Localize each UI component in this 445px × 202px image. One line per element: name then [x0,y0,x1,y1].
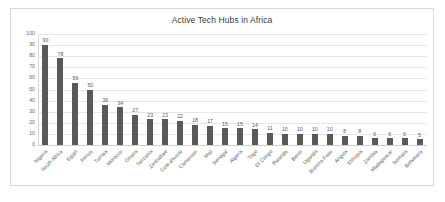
bar-item[interactable]: 5 [412,34,427,145]
x-axis-tick-label: Kenya [80,149,94,163]
bar-value-label: 50 [87,83,93,88]
bar[interactable] [132,115,138,145]
bar[interactable] [57,58,63,145]
y-axis-tick-label: 0 [32,142,35,147]
x-axis-tick-label: Mali [203,149,213,159]
bar-value-label: 78 [58,52,64,57]
y-axis-tick-label: 70 [29,65,35,70]
bar[interactable] [102,105,108,145]
x-axis-tick-label: Algeria [229,149,244,164]
x-axis-category-labels: NigeriaSouth AfricaEgyptKenyaTunisiaMoro… [38,147,427,189]
bar-item[interactable]: 14 [247,34,262,145]
bar[interactable] [342,136,348,145]
bar-value-label: 27 [132,108,138,113]
bar-value-label: 6 [403,132,406,137]
bar-series: 9078565036342723232218171515141110101010… [38,34,427,145]
bar[interactable] [87,90,93,146]
bar-item[interactable]: 10 [307,34,322,145]
bar-value-label: 14 [252,123,258,128]
bar-value-label: 11 [267,126,272,131]
bar-item[interactable]: 90 [38,34,53,145]
x-axis-tick-label: Rwanda [271,149,288,166]
bar-item[interactable]: 10 [277,34,292,145]
bar[interactable] [207,126,213,145]
bar-item[interactable]: 36 [98,34,113,145]
bar-value-label: 10 [282,127,288,132]
bar-value-label: 10 [312,127,318,132]
bar-item[interactable]: 10 [322,34,337,145]
bar-item[interactable]: 78 [53,34,68,145]
bar-value-label: 15 [222,122,228,127]
bar[interactable] [297,134,303,145]
bar-item[interactable]: 10 [292,34,307,145]
bar-value-label: 23 [162,113,168,118]
bar-item[interactable]: 27 [128,34,143,145]
bar-item[interactable]: 15 [218,34,233,145]
bar[interactable] [417,139,423,145]
bar-value-label: 22 [177,114,183,119]
bar-value-label: 6 [373,132,376,137]
x-axis-tick-label: Ethiopia [346,149,363,166]
bar-value-label: 36 [102,98,108,103]
bar-value-label: 18 [192,118,198,123]
bar[interactable] [327,134,333,145]
bar-value-label: 23 [147,113,153,118]
y-axis-tick-label: 50 [29,87,35,92]
bar-item[interactable]: 50 [83,34,98,145]
bar[interactable] [42,45,48,145]
bar-item[interactable]: 56 [68,34,83,145]
bar-item[interactable]: 23 [158,34,173,145]
bar[interactable] [312,134,318,145]
bar[interactable] [372,138,378,145]
y-axis-tick-label: 100 [26,31,35,36]
bar-value-label: 34 [117,101,123,106]
bar[interactable] [147,119,153,145]
bar-item[interactable]: 18 [188,34,203,145]
bar-item[interactable]: 34 [113,34,128,145]
y-axis-tick-label: 90 [29,42,35,47]
bar-value-label: 8 [343,129,346,134]
x-axis-tick-label: Senegal [212,149,229,166]
plot-area: 1009080706050403020100 90785650363427232… [38,34,427,145]
bar[interactable] [252,129,258,145]
bar[interactable] [117,107,123,145]
bar-item[interactable]: 6 [382,34,397,145]
y-axis-tick-label: 30 [29,109,35,114]
y-axis-tick-label: 80 [29,54,35,59]
bar-value-label: 56 [73,76,79,81]
bar-item[interactable]: 22 [173,34,188,145]
bar[interactable] [237,128,243,145]
bar[interactable] [177,121,183,145]
bar-item[interactable]: 6 [367,34,382,145]
bar[interactable] [282,134,288,145]
bar[interactable] [162,119,168,145]
chart-container: Active Tech Hubs in Africa 1009080706050… [10,8,434,186]
x-axis-tick-label: Egypt [66,149,79,162]
bar-value-label: 10 [297,127,303,132]
bar-item[interactable]: 17 [203,34,218,145]
bar-item[interactable]: 23 [143,34,158,145]
bar[interactable] [192,125,198,145]
y-axis-tick-label: 20 [29,120,35,125]
gridline [38,145,427,146]
bar[interactable] [402,138,408,145]
bar-value-label: 15 [237,122,243,127]
bar-item[interactable]: 15 [233,34,248,145]
bar-value-label: 6 [388,132,391,137]
bar-value-label: 8 [358,129,361,134]
y-axis-tick-label: 40 [29,98,35,103]
bar-value-label: 17 [207,119,213,124]
bar[interactable] [222,128,228,145]
bar-item[interactable]: 8 [352,34,367,145]
chart-title: Active Tech Hubs in Africa [11,15,433,25]
bar[interactable] [72,83,78,145]
bar-item[interactable]: 11 [262,34,277,145]
bar-value-label: 5 [418,133,421,138]
bar-item[interactable]: 8 [337,34,352,145]
bar[interactable] [357,136,363,145]
y-axis-tick-label: 60 [29,76,35,81]
bar[interactable] [387,138,393,145]
bar-item[interactable]: 6 [397,34,412,145]
bar-value-label: 90 [43,38,49,43]
bar[interactable] [267,133,273,145]
